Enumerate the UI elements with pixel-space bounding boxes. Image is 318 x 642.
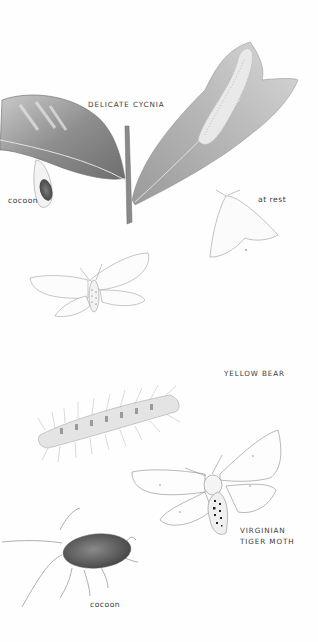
caterpillar-yellow-bear xyxy=(38,385,180,462)
cocoon-figure-bottom xyxy=(2,508,138,607)
label-cocoon-bottom: cocoon xyxy=(90,600,120,610)
species-label-virginian-line1: VIRGINIAN xyxy=(240,526,286,536)
label-at-rest: at rest xyxy=(258,195,286,205)
moth-virginian-tiger xyxy=(132,430,281,534)
species-label-yellow-bear: YELLOW BEAR xyxy=(224,369,285,379)
species-label-delicate-cycnia: DELICATE CYCNIA xyxy=(88,100,165,110)
field-guide-page: DELICATE CYCNIA cocoon at rest YELLOW BE… xyxy=(0,0,318,642)
label-cocoon-top: cocoon xyxy=(8,196,38,206)
stem xyxy=(125,126,132,224)
moth-spread-delicate xyxy=(30,253,149,317)
species-label-virginian-line2: TIGER MOTH xyxy=(240,537,295,547)
